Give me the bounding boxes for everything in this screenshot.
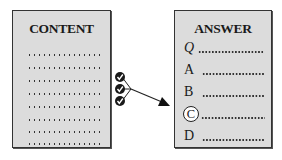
- checkmark-icon: [115, 72, 125, 82]
- checkmark-icon: [115, 96, 125, 106]
- checkmark-icon: [115, 84, 125, 94]
- connector-arrow: [0, 0, 282, 160]
